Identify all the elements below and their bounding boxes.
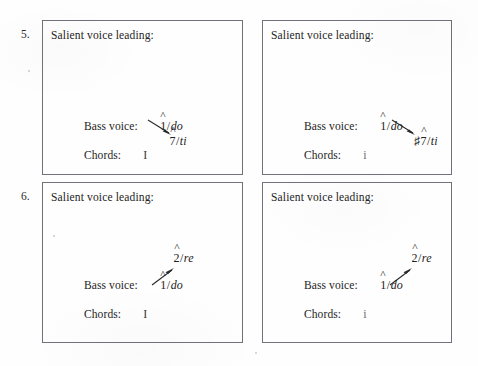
chords-label: Chords: <box>84 149 121 161</box>
target-scale-degree: ♯7/ti <box>414 134 438 149</box>
panel-heading: Salient voice leading: <box>51 191 154 203</box>
bass-voice-value: 1/do <box>380 116 403 134</box>
target-solfege: re <box>422 251 432 265</box>
target-numeral: 2 <box>174 251 180 266</box>
target-solfege: ti <box>431 134 438 148</box>
panel-heading: Salient voice leading: <box>51 29 154 41</box>
bass-voice-label: Bass voice: <box>84 120 138 132</box>
chords-label: Chords: <box>304 149 341 161</box>
target-numeral: 2 <box>412 251 418 266</box>
chords-row: Chords: i <box>304 145 381 163</box>
chords-row: Chords: i <box>304 304 381 322</box>
bass-voice-row: Bass voice: 1/do <box>304 116 403 134</box>
target-scale-degree: 7/ti <box>169 134 187 149</box>
start-solfege: do <box>391 119 403 133</box>
target-numeral: 7 <box>421 134 427 149</box>
bass-voice-value: 1/do <box>380 275 403 293</box>
exercise-5-panel-right: Salient voice leading: Bass voice: 1/do … <box>262 20 452 175</box>
chords-row: Chords: I <box>84 145 161 163</box>
chords-value: I <box>143 145 161 163</box>
start-scale-degree: 1/do <box>160 278 183 293</box>
scan-speck <box>255 352 257 354</box>
start-numeral: 1 <box>380 119 386 134</box>
target-scale-degree: 2/re <box>173 251 194 266</box>
bass-voice-label: Bass voice: <box>304 120 358 132</box>
exercise-6-panel-left: Salient voice leading: Bass voice: 1/do … <box>42 182 243 343</box>
bass-voice-row: Bass voice: 1/do <box>84 116 183 134</box>
exercise-6-panel-right: Salient voice leading: Bass voice: 1/do … <box>262 182 452 343</box>
target-scale-degree: 2/re <box>411 251 432 266</box>
start-solfege: do <box>391 278 403 292</box>
bass-voice-label: Bass voice: <box>304 279 358 291</box>
start-numeral: 1 <box>160 119 166 134</box>
target-solfege: ti <box>180 134 187 148</box>
exercise-number-6: 6. <box>21 190 30 202</box>
start-scale-degree: 1/do <box>380 278 403 293</box>
target-numeral: 7 <box>170 134 176 149</box>
scan-speck <box>28 70 30 72</box>
chords-label: Chords: <box>84 308 121 320</box>
start-scale-degree: 1/do <box>380 119 403 134</box>
chord-symbol: I <box>143 307 147 321</box>
start-solfege: do <box>171 278 183 292</box>
bass-voice-row: Bass voice: 1/do <box>84 275 183 293</box>
bass-voice-value: 1/do <box>160 275 183 293</box>
chord-symbol: I <box>143 148 147 162</box>
chord-symbol: i <box>363 307 367 321</box>
exercise-number-5: 5. <box>21 28 30 40</box>
chords-value: i <box>363 304 381 322</box>
chords-row: Chords: I <box>84 304 161 322</box>
bass-voice-row: Bass voice: 1/do <box>304 275 403 293</box>
start-numeral: 1 <box>380 278 386 293</box>
chords-value: i <box>363 145 381 163</box>
exercise-5-panel-left: Salient voice leading: Bass voice: 1/do … <box>42 20 243 175</box>
panel-heading: Salient voice leading: <box>271 29 374 41</box>
bass-voice-label: Bass voice: <box>84 279 138 291</box>
panel-heading: Salient voice leading: <box>271 191 374 203</box>
worksheet-page: 5. Salient voice leading: Bass voice: 1/… <box>0 0 478 366</box>
target-solfege: re <box>184 251 194 265</box>
start-numeral: 1 <box>160 278 166 293</box>
chords-label: Chords: <box>304 308 341 320</box>
chord-symbol: i <box>363 148 367 162</box>
scan-speck <box>53 235 55 237</box>
chords-value: I <box>143 304 161 322</box>
